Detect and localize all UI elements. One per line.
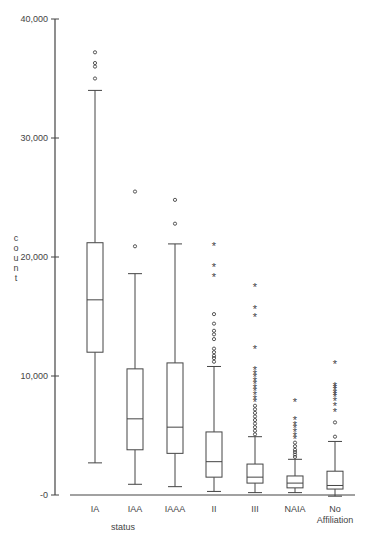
y-tick-label: 30,000	[20, 133, 48, 143]
y-tick-label: -0	[40, 490, 48, 500]
y-axis-title: count	[13, 233, 18, 283]
plot-area: -010,00020,00030,00040,000 IAIAAIAAAIIII…	[0, 0, 370, 545]
extreme-marker: *	[253, 303, 258, 315]
x-category-label: Affiliation	[317, 515, 353, 525]
y-tick-label: 40,000	[20, 14, 48, 24]
outlier-marker	[212, 333, 215, 336]
outlier-marker	[93, 77, 96, 80]
outlier-marker	[253, 429, 256, 432]
outlier-marker	[93, 65, 96, 68]
outlier-marker	[212, 329, 215, 332]
box-ii: ***	[206, 240, 222, 491]
outlier-marker	[333, 421, 336, 424]
x-category-label: II	[211, 504, 216, 514]
extreme-marker: *	[293, 414, 298, 426]
outlier-marker	[212, 322, 215, 325]
box-no-affiliation: **********	[327, 358, 343, 496]
extreme-marker: *	[212, 240, 217, 252]
x-axis-title: status	[111, 522, 136, 532]
extreme-marker: *	[212, 271, 217, 283]
extreme-marker: *	[253, 281, 258, 293]
box-iaaa	[167, 198, 183, 486]
box-iii: **************	[247, 281, 263, 493]
x-category-label: III	[251, 504, 259, 514]
outlier-marker	[173, 222, 176, 225]
outlier-marker	[293, 445, 296, 448]
y-axis: -010,00020,00030,00040,000	[20, 14, 59, 500]
outlier-marker	[133, 190, 136, 193]
box-ia	[87, 51, 103, 463]
extreme-marker: *	[333, 380, 338, 392]
outlier-marker	[253, 433, 256, 436]
x-category-label: NAIA	[284, 504, 305, 514]
outlier-marker	[212, 360, 215, 363]
extreme-marker: *	[293, 396, 298, 408]
outlier-marker	[212, 351, 215, 354]
y-tick-label: 10,000	[20, 371, 48, 381]
outlier-marker	[253, 415, 256, 418]
x-category-label: IAA	[128, 504, 143, 514]
outlier-marker	[212, 313, 215, 316]
outlier-marker	[253, 422, 256, 425]
outlier-marker	[93, 51, 96, 54]
x-category-label: IAAA	[165, 504, 186, 514]
y-tick-label: 20,000	[20, 252, 48, 262]
box-naia: *******	[287, 396, 303, 492]
boxplot-chart: -010,00020,00030,00040,000 IAIAAIAAAIIII…	[0, 0, 370, 545]
extreme-marker: *	[333, 358, 338, 370]
outlier-marker	[253, 408, 256, 411]
outlier-marker	[133, 245, 136, 248]
outlier-marker	[173, 198, 176, 201]
x-category-label: IA	[91, 504, 100, 514]
outlier-marker	[212, 338, 215, 341]
x-axis: IAIAAIAAAIIIIINAIANoAffiliation	[70, 495, 355, 525]
x-category-label: No	[329, 504, 341, 514]
extreme-marker: *	[253, 364, 258, 376]
outlier-marker	[253, 426, 256, 429]
outlier-marker	[253, 418, 256, 421]
extreme-marker: *	[253, 343, 258, 355]
outlier-marker	[93, 61, 96, 64]
outlier-marker	[333, 435, 336, 438]
box-iaa	[127, 190, 143, 484]
box-series: **********************************	[87, 51, 343, 496]
outlier-marker	[212, 347, 215, 350]
outlier-marker	[253, 411, 256, 414]
extreme-marker: *	[212, 261, 217, 273]
